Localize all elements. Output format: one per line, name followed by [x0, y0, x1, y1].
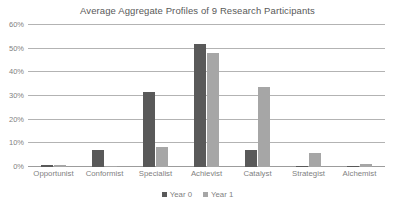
- bar[interactable]: [309, 153, 321, 167]
- y-axis-tick-label: 10%: [9, 138, 24, 147]
- x-axis-tick-label: Opportunist: [28, 169, 79, 178]
- bar[interactable]: [360, 164, 372, 167]
- bar[interactable]: [245, 150, 257, 167]
- bar-group: [232, 25, 283, 167]
- bar[interactable]: [207, 53, 219, 167]
- legend-swatch-icon: [162, 192, 167, 197]
- x-axis-tick-label: Conformist: [79, 169, 130, 178]
- chart-title: Average Aggregate Profiles of 9 Research…: [0, 5, 395, 16]
- x-axis-tick-label: Specialist: [130, 169, 181, 178]
- bar-group: [181, 25, 232, 167]
- legend-label: Year 0: [170, 190, 192, 199]
- x-axis-tick-label: Catalyst: [232, 169, 283, 178]
- y-axis-tick-label: 40%: [9, 67, 24, 76]
- bar-group: [283, 25, 334, 167]
- y-axis-tick-label: 50%: [9, 43, 24, 52]
- bar-group: [79, 25, 130, 167]
- legend-label: Year 1: [211, 190, 233, 199]
- x-axis-tick-label: Strategist: [283, 169, 334, 178]
- bar[interactable]: [143, 92, 155, 167]
- legend-item[interactable]: Year 0: [162, 190, 192, 199]
- bar[interactable]: [92, 150, 104, 167]
- y-axis-tick-label: 20%: [9, 114, 24, 123]
- legend-swatch-icon: [203, 192, 208, 197]
- bar[interactable]: [296, 166, 308, 167]
- bar-group: [28, 25, 79, 167]
- bar[interactable]: [194, 44, 206, 167]
- y-axis-tick-label: 30%: [9, 91, 24, 100]
- bar[interactable]: [347, 166, 359, 167]
- chart-container: Average Aggregate Profiles of 9 Research…: [0, 0, 395, 208]
- bar-group: [130, 25, 181, 167]
- bar[interactable]: [105, 166, 117, 167]
- bar-group: [334, 25, 385, 167]
- plot-area: 0%10%20%30%40%50%60%: [28, 25, 385, 167]
- bars-layer: [28, 25, 385, 167]
- legend-item[interactable]: Year 1: [203, 190, 233, 199]
- chart-legend: Year 0Year 1: [0, 190, 395, 199]
- x-axis-tick-label: Achievist: [181, 169, 232, 178]
- y-axis-tick-label: 60%: [9, 20, 24, 29]
- x-axis-tick-label: Alchemist: [334, 169, 385, 178]
- bar[interactable]: [258, 87, 270, 167]
- bar[interactable]: [41, 165, 53, 167]
- x-axis-labels: OpportunistConformistSpecialistAchievist…: [28, 169, 385, 183]
- bar[interactable]: [54, 165, 66, 167]
- bar[interactable]: [156, 147, 168, 167]
- y-axis-tick-label: 0%: [13, 162, 24, 171]
